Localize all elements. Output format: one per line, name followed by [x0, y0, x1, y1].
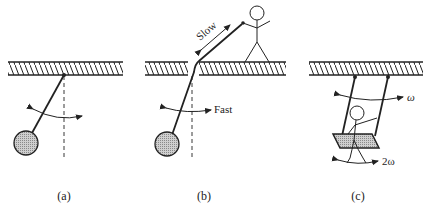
ceiling-c	[309, 62, 423, 75]
fast-label: Fast	[214, 103, 232, 115]
two-omega-arrow	[338, 160, 378, 163]
caption-c: (c)	[351, 189, 364, 203]
caption-b: (b)	[197, 189, 211, 203]
two-omega-label: 2ω	[382, 155, 395, 167]
pendulum-figure: (a) Slow Fast (b)	[0, 0, 433, 212]
ceiling-a	[8, 62, 123, 75]
pendulum-rod-a	[32, 75, 64, 133]
fast-arrow	[166, 108, 211, 112]
ceiling-b	[145, 62, 286, 75]
person-pulling-b	[243, 6, 270, 62]
slow-label: Slow	[194, 19, 219, 43]
pendulum-bob-a	[14, 131, 38, 155]
pendulum-bob-b	[155, 132, 179, 156]
swing-rope-right	[375, 77, 388, 136]
pull-string-b	[172, 24, 242, 135]
diagram-canvas: (a) Slow Fast (b)	[0, 0, 433, 212]
caption-a: (a)	[57, 189, 70, 203]
panel-b: Slow Fast (b)	[145, 6, 286, 203]
panel-c: ω 2ω (c)	[309, 62, 423, 203]
panel-a: (a)	[8, 62, 123, 203]
omega-label: ω	[407, 91, 415, 103]
